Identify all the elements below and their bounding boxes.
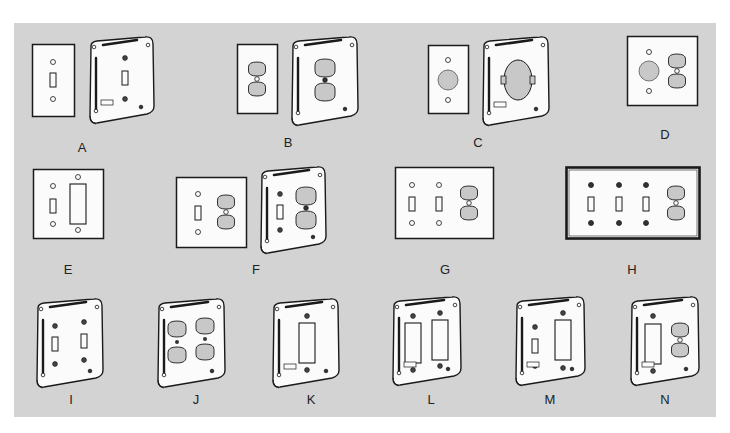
plate-l-box-cover: [390, 296, 462, 386]
plate-label-l: L: [427, 392, 434, 407]
plate-label-n: N: [660, 392, 669, 407]
plate-n-box-cover: [628, 296, 700, 386]
plate-k-box-cover: [270, 298, 340, 388]
plate-label-j: J: [193, 392, 200, 407]
plate-d-flat-plate: [627, 36, 698, 106]
plate-f-flat-plate: [176, 177, 247, 248]
plate-j-box-cover: [155, 298, 226, 388]
plate-label-b: B: [284, 135, 293, 150]
plate-f-box-cover: [258, 166, 327, 254]
plate-label-c: C: [473, 135, 482, 150]
plate-label-a: A: [78, 140, 87, 155]
plate-a-box-cover: [87, 36, 155, 124]
plate-g-flat-plate: [395, 167, 494, 239]
plate-h-flat-plate: [566, 167, 700, 239]
plate-i-box-cover: [34, 298, 104, 388]
plate-m-box-cover: [513, 296, 586, 386]
plate-label-k: K: [307, 392, 316, 407]
plate-label-m: M: [545, 392, 556, 407]
plate-a-flat-plate: [32, 44, 75, 117]
plate-label-h: H: [627, 262, 636, 277]
plate-label-i: I: [69, 392, 73, 407]
plate-label-f: F: [252, 262, 260, 277]
plate-c-flat-plate: [428, 45, 469, 114]
plate-b-flat-plate: [237, 44, 278, 114]
plate-label-e: E: [64, 262, 73, 277]
plate-b-box-cover: [289, 36, 359, 126]
plate-label-g: G: [440, 262, 450, 277]
plate-e-flat-plate: [33, 169, 104, 239]
plate-c-box-cover: [480, 36, 550, 126]
plate-label-d: D: [660, 127, 669, 142]
